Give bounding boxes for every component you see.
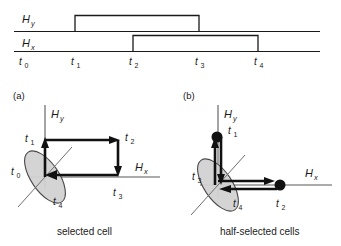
panel-a-label-t0-sub: 0: [17, 172, 21, 179]
time-tick-t2-sub: 2: [135, 62, 139, 69]
panel-b-label-t3-base: t: [192, 171, 196, 182]
panel-b-y-axis-label-sub: y: [232, 114, 238, 123]
hx-pulse-trace: [133, 36, 258, 52]
panel-a-arrowhead-t1: [41, 137, 49, 148]
panel-a-tag: (a): [13, 90, 25, 101]
panel-a-label-t1-sub: 1: [31, 139, 35, 146]
time-tick-t4-base: t: [254, 56, 258, 67]
panel-b-label-t2-sub: 2: [282, 204, 286, 211]
panel-b-state-dot-x: [275, 180, 286, 191]
panel-b-caption: half-selected cells: [220, 226, 299, 237]
time-tick-t3-sub: 3: [201, 62, 205, 69]
panel-b-label-t4-sub: 4: [239, 204, 243, 211]
panel-a-caption: selected cell: [57, 226, 112, 237]
panel-b-state-dot-y: [212, 132, 223, 143]
panel-b-arrowhead-t2: [264, 177, 275, 185]
panel-a-label-t2-sub: 2: [131, 138, 135, 145]
figure-canvas: H y H x t 0 t 1 t 2 t 3 t 4: [0, 0, 341, 246]
figure-root: H y H x t 0 t 1 t 2 t 3 t 4: [0, 0, 341, 246]
panel-a: (a) H y H x: [11, 90, 160, 237]
panel-a-label-t0-base: t: [11, 166, 15, 177]
time-tick-t0-sub: 0: [25, 62, 29, 69]
hx-label-sub: x: [30, 43, 35, 52]
panel-a-label-t3-base: t: [113, 187, 117, 198]
time-tick-t1-base: t: [71, 56, 75, 67]
panel-b-label-t1-sub: 1: [234, 131, 238, 138]
panel-b-label-t2-base: t: [276, 198, 280, 209]
panel-a-label-t1-base: t: [25, 133, 29, 144]
time-tick-t1-sub: 1: [77, 62, 81, 69]
panel-a-x-axis-label-sub: x: [143, 167, 148, 176]
panel-a-x-axis-label-base: H: [135, 161, 143, 173]
panel-a-trajectory: [41, 136, 122, 180]
time-tick-t2-base: t: [129, 56, 133, 67]
panel-b-label-t3-sub: 3: [198, 177, 202, 184]
panel-a-label-t4-sub: 4: [59, 202, 63, 209]
panel-b-x-axis-label-sub: x: [313, 173, 318, 182]
hy-pulse-trace: [75, 16, 199, 32]
panel-b-x-axis-label-base: H: [305, 167, 313, 179]
hy-label-base: H: [22, 13, 30, 25]
panel-a-y-axis-label-base: H: [51, 108, 59, 120]
panel-a-label-t2-base: t: [125, 132, 129, 143]
hx-label-base: H: [22, 37, 30, 49]
timing-diagram: H y H x t 0 t 1 t 2 t 3 t 4: [14, 13, 320, 69]
panel-b-label-t1-base: t: [228, 125, 232, 136]
panel-b-tag: (b): [183, 90, 195, 101]
time-tick-t4-sub: 4: [260, 62, 264, 69]
time-tick-t0-base: t: [19, 56, 23, 67]
time-tick-t3-base: t: [195, 56, 199, 67]
time-tick-labels: t 0 t 1 t 2 t 3 t 4: [19, 56, 264, 69]
panel-a-label-t3-sub: 3: [119, 193, 123, 200]
panel-a-y-axis-label-sub: y: [59, 114, 65, 123]
hy-label-sub: y: [30, 19, 36, 28]
panel-b: (b) H y H x: [183, 90, 332, 237]
panel-b-y-axis-label-base: H: [224, 108, 232, 120]
